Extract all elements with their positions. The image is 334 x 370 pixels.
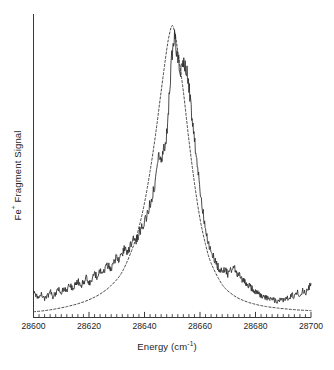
plot-canvas <box>0 0 334 370</box>
spectrum-figure: Fe+ Fragment Signal Energy (cm-1) 286002… <box>0 0 334 370</box>
x-axis-tick-label: 28660 <box>188 321 212 331</box>
y-axis-label-superscript: + <box>10 205 17 209</box>
x-axis-label-post: ) <box>193 341 196 352</box>
x-axis-tick-label: 28640 <box>133 321 157 331</box>
x-axis-tick-label: 28620 <box>77 321 101 331</box>
x-axis-tick-label: 28600 <box>22 321 46 331</box>
x-axis-tick-label: 28700 <box>299 321 323 331</box>
y-axis-label-post: Fragment Signal <box>12 130 23 205</box>
y-axis-label-pre: Fe <box>12 209 23 220</box>
x-axis-label: Energy (cm-1) <box>0 341 334 352</box>
fitted-profile-curve <box>34 25 312 311</box>
x-axis-label-pre: Energy (cm <box>137 341 187 352</box>
x-axis-tick-label: 28680 <box>244 321 268 331</box>
x-axis-minor-ticks <box>39 314 305 317</box>
y-axis-label: Fe+ Fragment Signal <box>12 96 23 256</box>
experimental-spectrum-curve <box>34 30 312 304</box>
